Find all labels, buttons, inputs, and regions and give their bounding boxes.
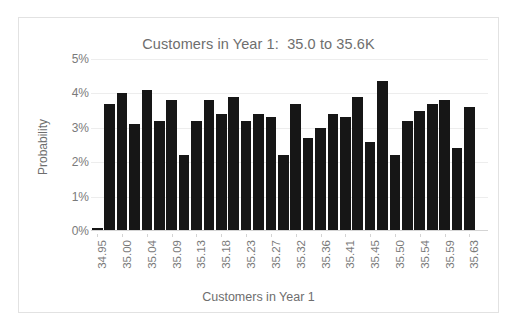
x-tick-mark — [97, 234, 98, 237]
y-axis-tick-label: 5% — [72, 53, 89, 65]
bar[interactable] — [328, 114, 339, 231]
x-tick-slot — [178, 234, 190, 290]
bar-slot — [128, 59, 140, 231]
bar-slot — [227, 59, 239, 231]
x-tick-slot — [227, 234, 239, 290]
bar-slot — [438, 59, 450, 231]
x-tick-slot: 35.45 — [364, 234, 376, 290]
x-tick-slot: 35.04 — [141, 234, 153, 290]
x-tick-mark — [196, 234, 197, 237]
x-tick-slot: 35.32 — [290, 234, 302, 290]
bar-slot — [327, 59, 339, 231]
bar[interactable] — [266, 117, 277, 231]
x-tick-mark — [345, 234, 346, 237]
bar-slot — [302, 59, 314, 231]
bar-slot — [190, 59, 202, 231]
bar[interactable] — [315, 128, 326, 231]
bar[interactable] — [104, 104, 115, 231]
x-tick-slot — [302, 234, 314, 290]
bar[interactable] — [402, 121, 413, 231]
bar[interactable] — [452, 148, 463, 231]
bar[interactable] — [129, 124, 140, 231]
bar[interactable] — [241, 121, 252, 231]
bar[interactable] — [290, 104, 301, 231]
x-tick-slot: 35.50 — [389, 234, 401, 290]
x-tick-mark — [321, 234, 322, 237]
x-tick-mark — [147, 234, 148, 237]
x-tick-mark — [246, 234, 247, 237]
bar[interactable] — [439, 100, 450, 231]
x-tick-slot: 35.13 — [190, 234, 202, 290]
bar[interactable] — [117, 93, 128, 231]
bar-slot — [240, 59, 252, 231]
x-tick-mark — [122, 234, 123, 237]
bar-slot — [389, 59, 401, 231]
bar[interactable] — [179, 155, 190, 231]
x-tick-slot — [252, 234, 264, 290]
bar-slot — [401, 59, 413, 231]
x-tick-mark — [395, 234, 396, 237]
x-tick-mark — [172, 234, 173, 237]
bar-slot — [414, 59, 426, 231]
x-tick-slot: 35.23 — [240, 234, 252, 290]
x-tick-slot — [401, 234, 413, 290]
y-axis-title: Probability — [36, 107, 50, 187]
x-tick-slot: 35.41 — [339, 234, 351, 290]
y-axis-tick-label: 3% — [72, 122, 89, 134]
x-tick-slot — [426, 234, 438, 290]
bar[interactable] — [216, 114, 227, 231]
y-axis-tick-label: 2% — [72, 156, 89, 168]
bar-slot — [91, 59, 103, 231]
bar[interactable] — [340, 117, 351, 231]
bar[interactable] — [253, 114, 264, 231]
x-tick-slot — [376, 234, 388, 290]
bar[interactable] — [303, 138, 314, 231]
x-tick-slot: 35.63 — [463, 234, 475, 290]
y-axis-tick-label: 4% — [72, 87, 89, 99]
x-tick-slot: 34.95 — [91, 234, 103, 290]
bar-slot — [252, 59, 264, 231]
x-tick-mark — [469, 234, 470, 237]
plot-area — [91, 59, 488, 231]
bar-series — [91, 59, 488, 231]
bar[interactable] — [228, 97, 239, 231]
bar-slot — [277, 59, 289, 231]
bar[interactable] — [191, 121, 202, 231]
bar[interactable] — [390, 155, 401, 231]
bar-slot — [364, 59, 376, 231]
bar[interactable] — [166, 100, 177, 231]
x-tick-slot: 35.18 — [215, 234, 227, 290]
bar[interactable] — [204, 100, 215, 231]
bar-slot — [376, 59, 388, 231]
bar[interactable] — [414, 111, 425, 231]
bar-slot — [215, 59, 227, 231]
bar[interactable] — [427, 104, 438, 231]
x-tick-slot — [476, 234, 488, 290]
bar[interactable] — [377, 81, 388, 231]
x-tick-slot — [103, 234, 115, 290]
y-axis-tick-label: 1% — [72, 191, 89, 203]
bar-slot — [153, 59, 165, 231]
bar-slot — [203, 59, 215, 231]
bar[interactable] — [464, 107, 475, 231]
bar-slot — [463, 59, 475, 231]
bar-slot — [426, 59, 438, 231]
bar[interactable] — [365, 142, 376, 231]
x-tick-slot: 35.00 — [116, 234, 128, 290]
bar[interactable] — [278, 155, 289, 231]
bar-slot — [116, 59, 128, 231]
bar[interactable] — [154, 121, 165, 231]
y-axis-tick-label: 0% — [72, 225, 89, 237]
x-axis-tick-labels: 34.9535.0035.0435.0935.1335.1835.2335.27… — [91, 234, 488, 290]
bar[interactable] — [142, 90, 153, 231]
x-tick-mark — [445, 234, 446, 237]
x-tick-mark — [296, 234, 297, 237]
bar[interactable] — [352, 97, 363, 231]
x-tick-slot: 35.36 — [314, 234, 326, 290]
x-axis-line — [91, 230, 488, 231]
bar-slot — [141, 59, 153, 231]
bar-slot — [290, 59, 302, 231]
bar-slot — [103, 59, 115, 231]
x-tick-slot — [153, 234, 165, 290]
x-tick-slot — [451, 234, 463, 290]
